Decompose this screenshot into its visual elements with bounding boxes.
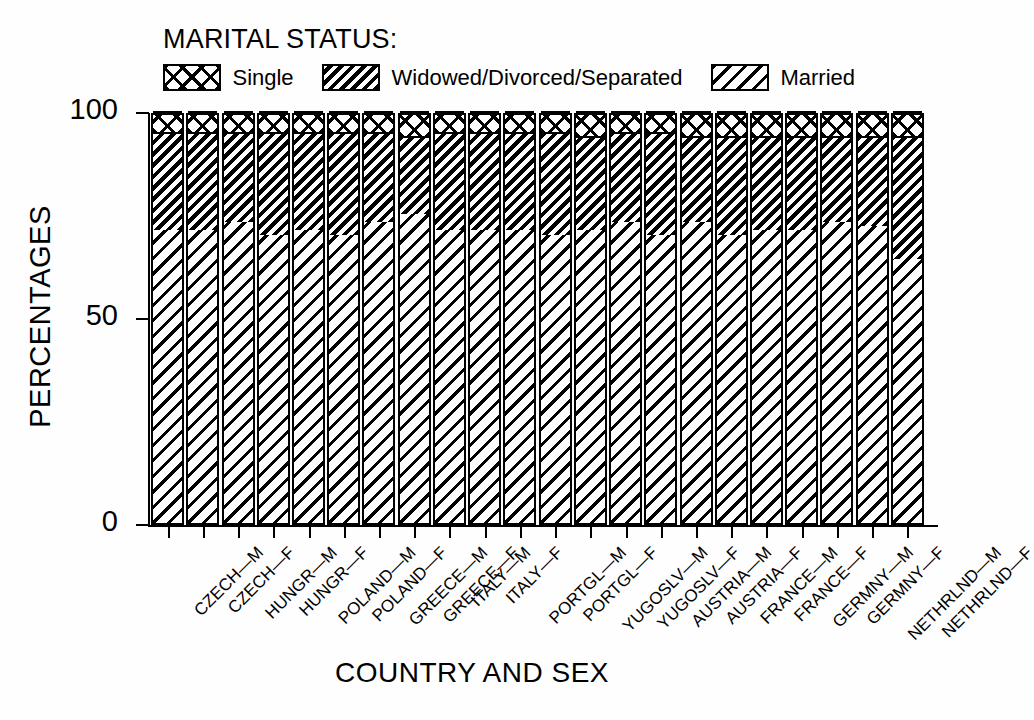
bar-francef[interactable]	[750, 113, 783, 525]
bar-segment-widowed	[188, 132, 217, 231]
bar-segment-single	[505, 111, 534, 132]
x-tick	[273, 527, 275, 538]
y-tick-label: 0	[0, 505, 132, 538]
legend-label-single: Single	[232, 65, 293, 91]
bar-segment-single	[188, 111, 217, 132]
bar-nethrlndf[interactable]	[891, 113, 924, 525]
x-tick	[696, 527, 698, 538]
bar-segment-widowed	[541, 132, 570, 235]
bar-hungrf[interactable]	[257, 113, 290, 525]
bar-segment-married	[787, 230, 816, 523]
x-tick	[485, 527, 487, 538]
bar-segment-married	[682, 222, 711, 523]
married-swatch-icon	[711, 64, 769, 91]
bar-segment-widowed	[153, 132, 182, 231]
bar-segment-widowed	[259, 132, 288, 235]
y-tick	[136, 524, 149, 526]
x-tick	[344, 527, 346, 538]
legend-item-widowed: Widowed/Divorced/Separated	[322, 64, 683, 91]
bar-segment-widowed	[858, 136, 887, 227]
x-tick	[309, 527, 311, 538]
single-swatch-icon	[163, 64, 221, 91]
x-axis-label: COUNTRY AND SEX	[0, 657, 944, 689]
bar-segment-married	[752, 230, 781, 523]
x-tick	[661, 527, 663, 538]
x-tick	[802, 527, 804, 538]
bar-polandm[interactable]	[292, 113, 325, 525]
bar-czechm[interactable]	[151, 113, 184, 525]
x-tick	[238, 527, 240, 538]
bar-greecem[interactable]	[362, 113, 395, 525]
chart-legend: Single Widowed/Divorced/Separated Marrie…	[163, 64, 879, 94]
y-tick-label: 50	[0, 299, 132, 332]
bar-segment-widowed	[435, 132, 464, 231]
x-tick	[414, 527, 416, 538]
bar-segment-single	[858, 111, 887, 136]
bar-segment-single	[470, 111, 499, 132]
bar-czechf[interactable]	[186, 113, 219, 525]
bar-segment-single	[576, 111, 605, 136]
bar-polandf[interactable]	[327, 113, 360, 525]
bar-segment-single	[717, 111, 746, 136]
bar-segment-widowed	[646, 132, 675, 235]
legend-label-married: Married	[780, 65, 855, 91]
legend-label-widowed: Widowed/Divorced/Separated	[392, 65, 683, 91]
y-tick	[136, 112, 149, 114]
bar-portglm[interactable]	[503, 113, 536, 525]
bar-nethrlndm[interactable]	[856, 113, 889, 525]
bar-segment-single	[646, 111, 675, 132]
bar-segment-widowed	[717, 136, 746, 235]
x-tick	[449, 527, 451, 538]
bar-segment-married	[505, 230, 534, 523]
bar-yugoslvf[interactable]	[609, 113, 642, 525]
bar-segment-married	[364, 222, 393, 523]
x-tick	[837, 527, 839, 538]
y-tick-label: 100	[0, 93, 132, 126]
bar-segment-widowed	[576, 136, 605, 231]
bar-greecef[interactable]	[398, 113, 431, 525]
bar-segment-widowed	[329, 132, 358, 235]
bar-germnyf[interactable]	[820, 113, 853, 525]
bar-segment-married	[541, 235, 570, 523]
bar-segment-widowed	[224, 132, 253, 223]
bar-segment-single	[364, 111, 393, 132]
bar-italym[interactable]	[433, 113, 466, 525]
x-tick	[555, 527, 557, 538]
x-tick	[626, 527, 628, 538]
bar-segment-single	[294, 111, 323, 132]
widowed-swatch-icon	[322, 64, 380, 91]
bar-segment-married	[400, 214, 429, 523]
bar-portglf[interactable]	[539, 113, 572, 525]
bar-segment-married	[224, 222, 253, 523]
bar-segment-single	[787, 111, 816, 136]
bar-germnym[interactable]	[785, 113, 818, 525]
bar-segment-single	[611, 111, 640, 132]
legend-title: MARITAL STATUS:	[163, 24, 398, 55]
x-tick	[872, 527, 874, 538]
bar-segment-widowed	[364, 132, 393, 223]
bar-austriaf[interactable]	[680, 113, 713, 525]
bar-segment-married	[611, 222, 640, 523]
legend-item-married: Married	[711, 64, 855, 91]
bar-segment-married	[893, 259, 922, 523]
x-tick	[731, 527, 733, 538]
x-tick	[520, 527, 522, 538]
bar-segment-widowed	[752, 136, 781, 231]
bar-segment-widowed	[787, 136, 816, 231]
bar-segment-widowed	[505, 132, 534, 231]
bar-austriam[interactable]	[644, 113, 677, 525]
bar-francem[interactable]	[715, 113, 748, 525]
bar-segment-widowed	[682, 136, 711, 223]
bar-segment-married	[717, 235, 746, 523]
bar-segment-single	[259, 111, 288, 132]
bar-italyf[interactable]	[468, 113, 501, 525]
bar-hungrm[interactable]	[222, 113, 255, 525]
bar-segment-single	[224, 111, 253, 132]
bar-segment-single	[541, 111, 570, 132]
bar-segment-single	[329, 111, 358, 132]
bar-segment-married	[646, 235, 675, 523]
bar-segment-single	[893, 111, 922, 136]
bar-segment-married	[259, 235, 288, 523]
bar-yugoslvm[interactable]	[574, 113, 607, 525]
